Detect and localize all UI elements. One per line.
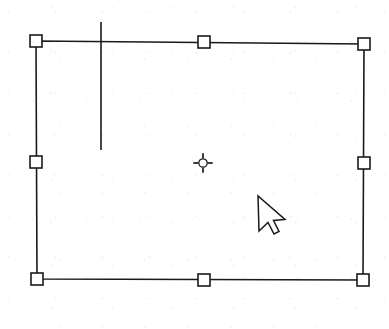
mouse-arrow-cursor-shape xyxy=(258,196,285,234)
handle-bottom-right[interactable] xyxy=(357,274,369,286)
handle-bottom-left[interactable] xyxy=(31,273,43,285)
handle-top-right[interactable] xyxy=(358,38,370,50)
handle-middle-right[interactable] xyxy=(358,157,370,169)
handle-bottom-center[interactable] xyxy=(198,274,210,286)
handle-middle-left[interactable] xyxy=(30,156,42,168)
selection-scene xyxy=(0,0,389,329)
handle-top-center[interactable] xyxy=(198,36,210,48)
mouse-arrow-cursor xyxy=(258,196,285,234)
rotation-center-marker[interactable] xyxy=(193,153,212,172)
rotation-center-circle[interactable] xyxy=(199,159,207,167)
handle-top-left[interactable] xyxy=(30,35,42,47)
drawing-canvas[interactable] xyxy=(0,0,389,329)
